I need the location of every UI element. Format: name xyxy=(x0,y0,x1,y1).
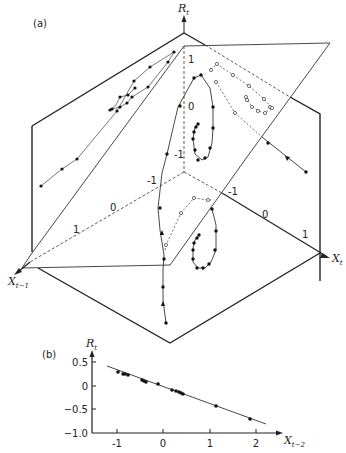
panel-a-y-label: Xt−1 xyxy=(7,275,29,290)
svg-text:-1: -1 xyxy=(112,438,122,449)
panel-a-x-label: Xt xyxy=(331,252,343,267)
panel-b-label: (b) xyxy=(42,349,56,360)
panel-b-x-label: Xt−2 xyxy=(283,434,306,449)
svg-text:−1.0: −1.0 xyxy=(64,428,88,439)
svg-text:0: 0 xyxy=(160,438,166,449)
panel-b-points xyxy=(116,370,252,421)
svg-text:-1: -1 xyxy=(228,186,238,197)
fit-line xyxy=(107,366,266,424)
svg-text:0.5: 0.5 xyxy=(72,357,88,368)
panel-b: (b) Rt Xt−2 0.5 0 −0.5 −1.0 -1 0 1 2 xyxy=(42,337,306,449)
panel-a-label: (a) xyxy=(33,18,47,29)
panel-b-y-label: Rt xyxy=(85,337,97,352)
svg-text:−0.5: −0.5 xyxy=(64,404,88,415)
svg-text:0: 0 xyxy=(262,209,268,220)
svg-text:-1: -1 xyxy=(174,149,184,160)
figure-canvas: (a) Rt Xt Xt−1 1 0 -1 -1 0 1 xyxy=(0,0,346,453)
svg-text:0: 0 xyxy=(188,101,194,112)
svg-text:1: 1 xyxy=(188,54,194,65)
direction-arrow-icon xyxy=(161,301,165,306)
svg-text:-1: -1 xyxy=(147,175,157,186)
svg-text:0: 0 xyxy=(82,381,88,392)
svg-text:1: 1 xyxy=(302,229,308,240)
panel-a: (a) Rt Xt Xt−1 1 0 -1 -1 0 1 xyxy=(7,2,343,343)
svg-text:1: 1 xyxy=(207,438,213,449)
svg-text:2: 2 xyxy=(253,438,259,449)
svg-text:1: 1 xyxy=(73,224,79,235)
panel-a-z-label: Rt xyxy=(177,2,189,17)
svg-text:0: 0 xyxy=(110,202,116,213)
x-axis-arrow-icon xyxy=(276,431,283,436)
